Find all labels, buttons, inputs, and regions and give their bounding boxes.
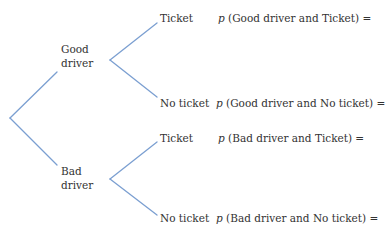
- expr-text: (Bad driver and Ticket) =: [228, 132, 364, 144]
- probability-symbol: p: [216, 212, 223, 224]
- node-good-driver-line1: Good: [61, 42, 93, 56]
- expr-good-no-ticket: p (Good driver and No ticket) =: [216, 96, 385, 110]
- branch-good-to-ticket: [110, 23, 157, 60]
- node-bad-no-ticket: No ticket: [160, 211, 209, 225]
- node-good-no-ticket: No ticket: [160, 96, 209, 110]
- branch-root-to-bad-driver: [10, 118, 57, 165]
- node-bad-driver-line1: Bad: [61, 164, 93, 178]
- expr-text: (Bad driver and No ticket) =: [226, 212, 378, 224]
- node-bad-ticket: Ticket: [160, 131, 193, 145]
- expr-text: (Good driver and No ticket) =: [226, 97, 385, 109]
- node-bad-driver: Bad driver: [61, 164, 93, 192]
- expr-bad-ticket: p (Bad driver and Ticket) =: [218, 131, 364, 145]
- branch-bad-to-no-ticket: [110, 179, 157, 215]
- branch-good-to-no-ticket: [110, 60, 157, 97]
- branch-root-to-good-driver: [10, 72, 57, 118]
- node-good-driver: Good driver: [61, 42, 93, 70]
- probability-symbol: p: [218, 12, 225, 24]
- expr-bad-no-ticket: p (Bad driver and No ticket) =: [216, 211, 378, 225]
- expr-text: (Good driver and Ticket) =: [228, 12, 371, 24]
- probability-symbol: p: [216, 97, 223, 109]
- node-good-ticket: Ticket: [160, 11, 193, 25]
- probability-symbol: p: [218, 132, 225, 144]
- branch-bad-to-ticket: [110, 142, 157, 179]
- node-bad-driver-line2: driver: [61, 178, 93, 192]
- node-good-driver-line2: driver: [61, 56, 93, 70]
- expr-good-ticket: p (Good driver and Ticket) =: [218, 11, 371, 25]
